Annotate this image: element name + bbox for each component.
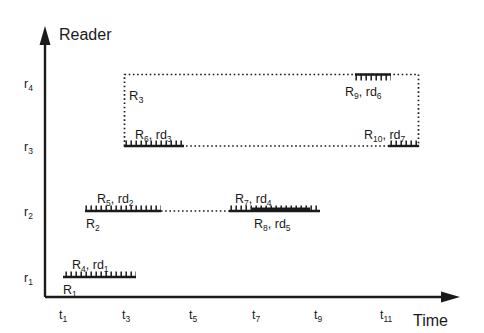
- y-axis-arrow-icon: [40, 26, 51, 45]
- x-tick-t3: t3: [122, 308, 130, 324]
- x-tick-t11: t11: [380, 308, 393, 324]
- region-r3-label: R3: [129, 88, 143, 105]
- y-tick-r1: r1: [24, 271, 33, 287]
- interval-r8-rd5-overlap: [252, 208, 310, 212]
- x-tick-t9: t9: [314, 308, 322, 324]
- interval-r5-rd2-hatch: [85, 206, 161, 212]
- x-tick-t7: t7: [252, 308, 260, 324]
- x-tick-labels: t1 t3 t5 t7 t9 t11: [59, 308, 393, 324]
- interval-r2-label: R2: [86, 217, 100, 233]
- y-axis-title: Reader: [59, 26, 112, 43]
- y-tick-r4: r4: [24, 77, 33, 93]
- interval-r4-rd1-hatch: [63, 272, 136, 278]
- interval-r4-rd1: R4, rd1 R1: [63, 258, 136, 299]
- x-axis-title: Time: [413, 312, 448, 329]
- x-axis: [45, 292, 460, 303]
- interval-r1-label: R1: [63, 283, 77, 299]
- x-tick-t5: t5: [189, 308, 197, 324]
- x-tick-t1: t1: [59, 308, 67, 324]
- y-tick-r2: r2: [24, 205, 33, 221]
- reader-time-diagram: Reader Time r4 r3 r2 r1 t1 t3 t5 t7 t9 t…: [0, 0, 484, 333]
- y-tick-r3: r3: [24, 140, 33, 156]
- interval-r6-rd3: R6, rd3: [124, 128, 184, 146]
- interval-r7-rd4: R7, rd4 R8, rd5: [229, 192, 320, 233]
- interval-r8-rd5-label: R8, rd5: [254, 217, 291, 233]
- interval-r9-rd6: R9, rd6: [345, 75, 391, 102]
- interval-r10-rd7: R10, rd7: [364, 128, 419, 146]
- y-tick-labels: r4 r3 r2 r1: [24, 77, 33, 287]
- interval-r5-rd2: R5, rd2 R2: [85, 192, 161, 233]
- interval-r7-rd4-label: R7, rd4: [235, 192, 272, 208]
- y-axis: [40, 26, 51, 297]
- x-axis-arrow-icon: [441, 292, 460, 303]
- interval-r10-rd7-label: R10, rd7: [364, 128, 406, 144]
- interval-r9-rd6-label: R9, rd6: [345, 85, 382, 101]
- interval-r9-rd6-hatch: [355, 75, 391, 81]
- interval-r6-rd3-label: R6, rd3: [135, 128, 172, 144]
- interval-r5-rd2-label: R5, rd2: [97, 192, 134, 208]
- interval-r4-rd1-label: R4, rd1: [72, 258, 109, 274]
